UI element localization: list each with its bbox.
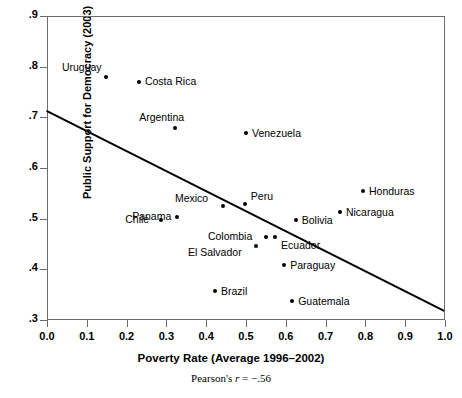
x-axis-tick-label: 0.9 <box>385 330 425 342</box>
data-point-label: Costa Rica <box>145 75 196 87</box>
x-axis-tick <box>246 320 247 327</box>
x-axis-tick-label: 0.4 <box>186 330 226 342</box>
x-axis-tick <box>206 320 207 327</box>
plot-area <box>47 16 445 320</box>
y-axis-tick-label: .6 <box>12 160 38 172</box>
y-axis-tick <box>40 67 47 68</box>
y-axis-tick-label: .8 <box>12 59 38 71</box>
data-point <box>104 75 108 79</box>
x-axis-tick <box>405 320 406 327</box>
x-axis-tick-label: 0.6 <box>266 330 306 342</box>
data-point <box>338 210 342 214</box>
data-point <box>294 218 298 222</box>
x-axis-tick-label: 0.3 <box>146 330 186 342</box>
pearson-caption: Pearson's r = −.56 <box>0 372 462 384</box>
y-axis-tick <box>40 219 47 220</box>
y-axis-tick <box>40 16 47 17</box>
x-axis-tick <box>47 320 48 327</box>
y-axis-tick-label: .5 <box>12 211 38 223</box>
data-point <box>244 131 248 135</box>
x-axis-tick-label: 1.0 <box>425 330 462 342</box>
x-axis-tick <box>365 320 366 327</box>
data-point-label: Venezuela <box>252 127 301 139</box>
x-axis-tick <box>127 320 128 327</box>
y-axis-tick-label: .4 <box>12 261 38 273</box>
y-axis-tick-label: .7 <box>12 109 38 121</box>
x-axis-tick <box>286 320 287 327</box>
x-axis-tick-label: 0.1 <box>67 330 107 342</box>
data-point-label: Paraguay <box>290 259 335 271</box>
y-axis-tick-label: .9 <box>12 8 38 20</box>
data-point-label: Peru <box>251 190 273 202</box>
data-point-label: Chile <box>125 213 149 225</box>
x-axis-tick <box>87 320 88 327</box>
scatter-plot-figure: Public Support for Democracy (2003) .9.8… <box>0 0 462 398</box>
data-point-label: Uruguay <box>62 61 102 73</box>
x-axis-tick <box>166 320 167 327</box>
caption-value: = −.56 <box>239 372 271 384</box>
data-point <box>254 244 258 248</box>
y-axis-tick <box>40 320 47 321</box>
x-axis-tick <box>326 320 327 327</box>
x-axis-tick-label: 0.7 <box>306 330 346 342</box>
data-point-label: Honduras <box>369 185 415 197</box>
data-point-label: Nicaragua <box>346 206 394 218</box>
data-point-label: El Salvador <box>188 246 242 258</box>
x-axis-tick-label: 0.2 <box>107 330 147 342</box>
data-point <box>221 204 225 208</box>
data-point-label: Guatemala <box>298 295 349 307</box>
data-point-label: Colombia <box>208 230 252 242</box>
y-axis-tick <box>40 168 47 169</box>
x-axis-tick <box>445 320 446 327</box>
y-axis-tick <box>40 269 47 270</box>
x-axis-tick-label: 0.5 <box>226 330 266 342</box>
caption-prefix: Pearson's <box>191 372 235 384</box>
data-point-label: Argentina <box>139 111 184 123</box>
y-axis-tick-label: .3 <box>12 312 38 324</box>
y-axis-tick <box>40 117 47 118</box>
x-axis-title: Poverty Rate (Average 1996–2002) <box>0 352 462 364</box>
data-point <box>361 189 365 193</box>
data-point-label: Mexico <box>175 192 208 204</box>
data-point <box>137 80 141 84</box>
x-axis-tick-label: 0.8 <box>345 330 385 342</box>
x-axis-tick-label: 0.0 <box>27 330 67 342</box>
data-point-label: Bolivia <box>302 214 333 226</box>
data-point-label: Brazil <box>221 285 247 297</box>
